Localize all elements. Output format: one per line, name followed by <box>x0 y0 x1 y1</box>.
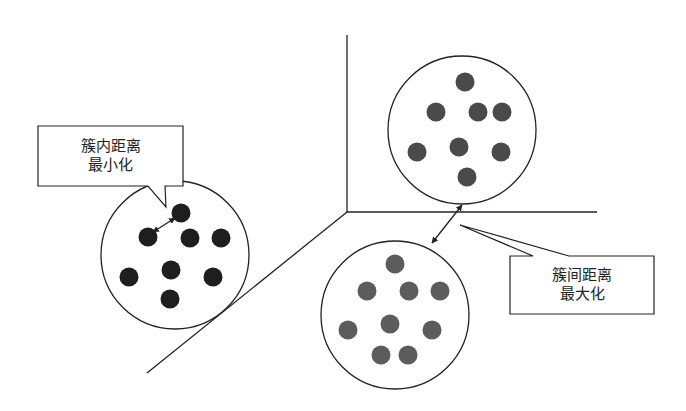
inter-distance-arrow <box>432 205 462 243</box>
data-point <box>204 268 223 287</box>
data-point <box>400 282 419 301</box>
data-point <box>427 103 446 122</box>
data-point <box>212 229 231 248</box>
clustering-diagram <box>0 0 686 411</box>
data-point <box>450 138 469 157</box>
intra-label-line1: 簇内距离 <box>38 137 183 156</box>
data-point <box>161 290 180 309</box>
data-point <box>339 321 358 340</box>
intra-label-line2: 最小化 <box>38 156 183 175</box>
data-point <box>493 103 512 122</box>
intra-callout-label: 簇内距离 最小化 <box>38 137 183 175</box>
inter-callout-label: 簇间距离 最大化 <box>510 266 654 304</box>
data-point <box>381 315 400 334</box>
data-point <box>162 261 181 280</box>
data-point <box>431 282 450 301</box>
cluster-bottom <box>321 241 469 389</box>
cluster-top-right <box>388 56 536 204</box>
cluster-left <box>101 181 249 329</box>
data-point <box>469 103 488 122</box>
data-point <box>408 143 427 162</box>
data-point <box>386 255 405 274</box>
inter-label-line1: 簇间距离 <box>510 266 654 285</box>
data-point <box>423 321 442 340</box>
clusters <box>101 56 536 389</box>
data-point <box>181 229 200 248</box>
data-point <box>372 346 391 365</box>
data-point <box>358 282 377 301</box>
inter-label-line2: 最大化 <box>510 285 654 304</box>
data-point <box>172 204 191 223</box>
data-point <box>399 346 418 365</box>
data-point <box>492 143 511 162</box>
data-point <box>120 268 139 287</box>
data-point <box>456 73 475 92</box>
data-point <box>458 168 477 187</box>
